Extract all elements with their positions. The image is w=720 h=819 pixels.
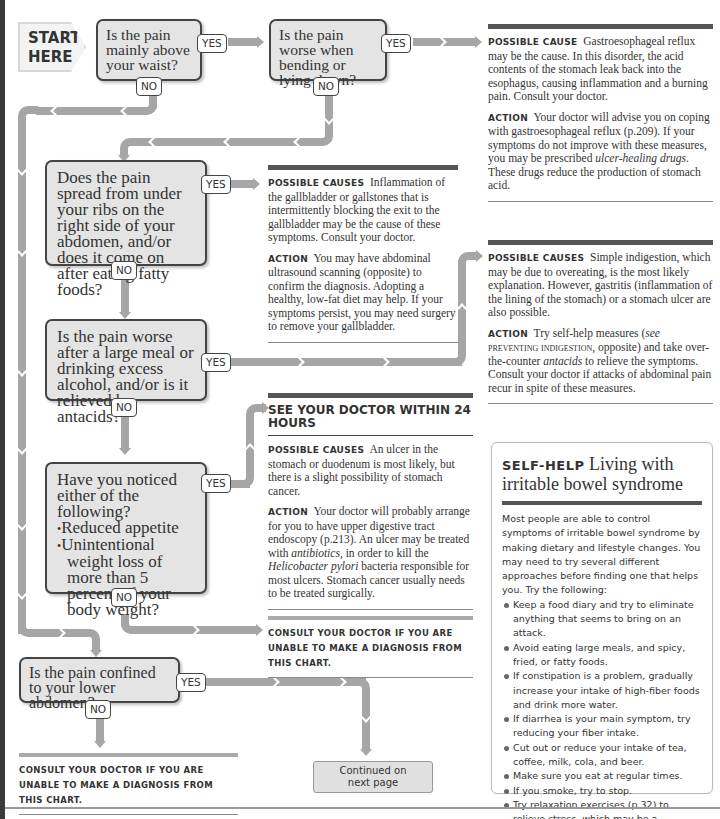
possible-cause: Possible cause Gastroesophageal reflux m…	[488, 35, 713, 104]
panel-top-rule	[488, 24, 713, 29]
panel-bottom-rule	[268, 677, 473, 678]
arrowhead	[90, 650, 102, 657]
connector-q6-yes-down	[362, 696, 370, 750]
consult-doctor-note: Consult your doctor if you are unable to…	[19, 763, 238, 808]
action: Action Try self-help measures (see Preve…	[488, 327, 713, 396]
connector-q6-no	[96, 716, 104, 742]
yes-label-q5: YES	[201, 474, 231, 493]
action-emphasis: antibiotics	[291, 547, 340, 559]
selfhelp-list: Keep a food diary and try to eliminate a…	[502, 598, 702, 819]
yes-label-q3: YES	[201, 175, 231, 194]
continued-next-page[interactable]: Continued on next page	[313, 761, 433, 793]
selfhelp-item: Avoid eating large meals, and spicy, fri…	[502, 641, 702, 670]
panel-top-rule	[268, 165, 458, 170]
connector-corner	[350, 678, 370, 698]
no-label-q2: NO	[313, 77, 339, 96]
panel-bottom-rule	[268, 609, 473, 610]
arrowhead	[119, 312, 131, 319]
no-label-q6: NO	[85, 700, 111, 719]
action-label: Action	[488, 329, 528, 339]
cause-label: Possible causes	[488, 253, 584, 263]
connector-left-rail	[18, 124, 26, 634]
connector-q3-yes	[229, 180, 254, 188]
panel-top-rule	[268, 616, 473, 620]
question-q4: Is the pain worse after a large meal or …	[45, 319, 207, 401]
action: Action Your doctor will advise you on co…	[488, 111, 713, 193]
connector-corner	[18, 617, 38, 637]
yes-label-q4: YES	[201, 353, 231, 372]
no-label-q1: NO	[136, 77, 162, 96]
panel-bottom-rule	[488, 403, 713, 404]
action-label: Action	[268, 254, 308, 264]
question-q6: Is the pain confined to your lower abdom…	[19, 657, 180, 703]
selfhelp-item: Cut out or reduce your intake of tea, co…	[502, 741, 702, 770]
see-emphasis: see	[645, 327, 660, 339]
question-q2: Is the pain worse when bending or lying …	[269, 19, 387, 81]
connector-q4-yes	[230, 358, 462, 366]
urgency-headline: SEE YOUR DOCTOR WITHIN 24 HOURS	[268, 404, 473, 436]
outcome-consult-bottom: Consult your doctor if you are unable to…	[19, 753, 238, 815]
arrowhead	[256, 624, 263, 636]
action-text: , in order to kill the	[340, 547, 429, 559]
question-text: Have you noticed either of the following…	[57, 472, 195, 520]
connector-q1-yes	[228, 38, 258, 46]
connector-corner	[137, 95, 157, 115]
arrowhead	[119, 448, 131, 455]
selfhelp-box: SELF-HELP Living with irritable bowel sy…	[491, 442, 713, 794]
panel-bottom-rule	[268, 342, 458, 343]
page-edge-bar	[0, 0, 5, 819]
start-here-badge: START HERE	[18, 22, 86, 72]
arrowhead	[94, 741, 106, 748]
selfhelp-intro: Most people are able to control symptoms…	[502, 512, 702, 598]
cross-reference: Preventing indigestion	[488, 341, 592, 353]
arrowhead	[360, 749, 372, 756]
panel-top-rule	[19, 753, 238, 757]
action: Action Your doctor will probably arrange…	[268, 505, 473, 601]
selfhelp-item: If diarrhea is your main symptom, try re…	[502, 712, 702, 741]
arrowhead	[253, 178, 260, 190]
action-label: Action	[488, 113, 528, 123]
outcome-indigestion: Possible causes Simple indigestion, whic…	[488, 240, 713, 404]
panel-bottom-rule	[488, 201, 713, 202]
action-text: Try self-help measures (	[534, 327, 646, 339]
outcome-consult-mid: Consult your doctor if you are unable to…	[268, 616, 473, 678]
connector-corner	[80, 629, 100, 649]
yes-label-q1: YES	[197, 34, 227, 53]
connector-corner	[18, 106, 38, 126]
outcome-ulcer: SEE YOUR DOCTOR WITHIN 24 HOURS Possible…	[268, 393, 473, 610]
possible-causes: Possible causes An ulcer in the stomach …	[268, 443, 473, 498]
yes-label-q6: YES	[176, 673, 206, 692]
action-label: Action	[268, 507, 308, 517]
question-q3: Does the pain spread from under your rib…	[45, 160, 207, 266]
panel-top-rule	[268, 393, 473, 398]
arrowhead	[257, 36, 264, 48]
cause-label: Possible causes	[268, 445, 364, 455]
connector-corner	[313, 126, 333, 146]
outcome-reflux: Possible cause Gastroesophageal reflux m…	[488, 24, 713, 202]
connector-corner	[458, 252, 478, 272]
panel-bottom-rule	[19, 814, 238, 815]
continued-line1: Continued on	[314, 765, 432, 777]
no-label-q3: NO	[111, 261, 137, 280]
no-label-q4: NO	[111, 398, 137, 417]
question-q1: Is the pain mainly above your waist?	[96, 19, 202, 81]
action: Action You may have abdominal ultrasound…	[268, 252, 458, 334]
consult-doctor-note: Consult your doctor if you are unable to…	[268, 626, 473, 671]
selfhelp-item: Keep a food diary and try to eliminate a…	[502, 598, 702, 641]
yes-label-q2: YES	[381, 34, 411, 53]
page-bottom-rule	[5, 807, 720, 809]
connector-corner	[234, 468, 254, 488]
selfhelp-item: If constipation is a problem, gradually …	[502, 669, 702, 712]
cause-label: Possible cause	[488, 37, 577, 47]
action-emphasis: antacids	[543, 355, 582, 367]
possible-causes: Possible causes Simple indigestion, whic…	[488, 251, 713, 320]
start-label-line2: HERE	[28, 48, 84, 67]
cause-label: Possible causes	[268, 178, 364, 188]
arrowhead	[475, 36, 482, 48]
selfhelp-item: If you smoke, try to stop.	[502, 784, 702, 798]
selfhelp-tag: SELF-HELP	[502, 458, 584, 473]
question-q5: Have you noticed either of the following…	[45, 462, 207, 594]
start-label-line1: START	[28, 29, 84, 48]
no-label-q5: NO	[111, 588, 137, 607]
arrowhead	[476, 250, 483, 262]
